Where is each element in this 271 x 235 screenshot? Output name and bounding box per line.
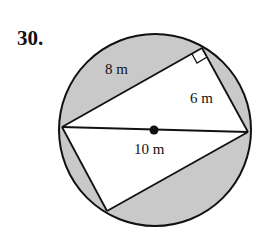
center-point: [150, 126, 159, 135]
circle-diagram: 8 m 6 m 10 m: [0, 0, 271, 235]
label-10m: 10 m: [134, 141, 165, 157]
label-8m: 8 m: [105, 61, 128, 77]
label-6m: 6 m: [190, 90, 213, 106]
